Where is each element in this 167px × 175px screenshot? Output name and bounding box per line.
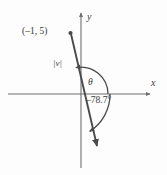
negative-angle-value-label: –78.7° [86, 96, 111, 106]
x-axis-label: x [151, 78, 155, 88]
vector-angle-figure: (–1, 5) y x |v| θ –78.7° [0, 0, 167, 175]
point-marker [68, 31, 72, 35]
y-axis-label: y [87, 12, 91, 22]
vector-magnitude-label: |v| [53, 59, 62, 68]
point-coordinate-label: (–1, 5) [22, 27, 47, 37]
theta-angle-label: θ [88, 78, 93, 88]
